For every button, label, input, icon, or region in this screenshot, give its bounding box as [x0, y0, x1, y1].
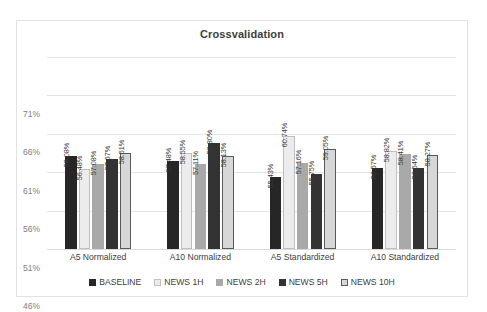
legend-label: BASELINE [99, 277, 141, 287]
legend-label: NEWS 5H [289, 277, 328, 287]
bar[interactable]: 56.48% [79, 169, 91, 249]
legend-label: NEWS 1H [164, 277, 203, 287]
bar-value-label: 60.74% [280, 123, 289, 147]
legend-item[interactable]: NEWS 10H [341, 277, 395, 287]
bar-value-label: 57.08% [89, 151, 98, 175]
bar-value-label: 57.16% [294, 150, 303, 174]
category-axis: A5 NormalizedA10 NormalizedA5 Standardiz… [47, 252, 456, 266]
bar-value-label: 59.05% [321, 136, 330, 160]
category-label: A5 Normalized [47, 252, 149, 262]
bar-value-label: 55.75% [307, 161, 316, 185]
bar-value-label: 59.80% [205, 130, 214, 154]
y-axis-tick-label: 61% [0, 186, 40, 196]
bar-value-label: 56.48% [75, 155, 84, 179]
category-label: A10 Normalized [149, 252, 251, 262]
y-axis-tick-label: 51% [0, 263, 40, 273]
bar[interactable]: 56.57% [372, 168, 384, 249]
bar[interactable]: 55.43% [270, 177, 282, 249]
bar-group: 58.08%56.48%57.08%57.67%58.51% [47, 57, 149, 249]
legend-label: NEWS 10H [351, 277, 395, 287]
chart-legend: BASELINENEWS 1HNEWS 2HNEWS 5HNEWS 10H [16, 275, 468, 289]
bar[interactable]: 57.11% [195, 164, 207, 249]
bar[interactable]: 59.05% [324, 149, 336, 249]
bar-value-label: 56.57% [369, 155, 378, 179]
legend-swatch-icon [154, 279, 161, 286]
category-label: A5 Standardized [252, 252, 354, 262]
gridline [47, 249, 456, 250]
legend-swatch-icon [341, 279, 348, 286]
bar-value-label: 58.51% [117, 140, 126, 164]
bar[interactable]: 58.82% [385, 151, 397, 249]
y-axis-tick-label: 66% [0, 147, 40, 157]
plot-area: 58.08%56.48%57.08%57.67%58.51%57.48%58.5… [47, 57, 456, 249]
bar-value-label: 56.54% [410, 155, 419, 179]
bar[interactable]: 55.75% [311, 174, 323, 249]
bar-value-label: 58.13% [219, 143, 228, 167]
legend-item[interactable]: NEWS 2H [216, 277, 265, 287]
bar-value-label: 58.08% [62, 143, 71, 167]
legend-swatch-icon [216, 279, 223, 286]
bar-value-label: 58.41% [396, 140, 405, 164]
bar-value-label: 57.48% [164, 148, 173, 172]
bar-value-label: 57.67% [103, 146, 112, 170]
bar-group: 56.57%58.82%58.41%56.54%58.27% [354, 57, 456, 249]
chart-title: Crossvalidation [17, 28, 467, 40]
bar-group: 55.43%60.74%57.16%55.75%59.05% [252, 57, 354, 249]
legend-label: NEWS 2H [226, 277, 265, 287]
legend-item[interactable]: NEWS 5H [279, 277, 328, 287]
legend-item[interactable]: NEWS 1H [154, 277, 203, 287]
legend-swatch-icon [89, 279, 96, 286]
y-axis: 46%51%56%61%66%71% [0, 57, 44, 249]
bar-value-label: 58.27% [423, 142, 432, 166]
bar[interactable]: 60.74% [283, 136, 295, 249]
legend-swatch-icon [279, 279, 286, 286]
bar[interactable]: 58.13% [222, 156, 234, 249]
bar-group: 57.48%58.55%57.11%59.80%58.13% [149, 57, 251, 249]
bar[interactable]: 57.08% [92, 164, 104, 249]
bar-value-label: 58.82% [382, 137, 391, 161]
bar-value-label: 55.43% [266, 163, 275, 187]
legend-item[interactable]: BASELINE [89, 277, 141, 287]
bar[interactable]: 57.67% [106, 159, 118, 249]
y-axis-tick-label: 46% [0, 301, 40, 311]
bar[interactable]: 56.54% [413, 168, 425, 249]
bar-value-label: 58.55% [178, 139, 187, 163]
bar[interactable]: 58.51% [120, 153, 132, 249]
bar[interactable]: 58.41% [399, 154, 411, 249]
y-axis-tick-label: 71% [0, 109, 40, 119]
bar[interactable]: 57.48% [167, 161, 179, 249]
category-label: A10 Standardized [354, 252, 456, 262]
y-axis-tick-label: 56% [0, 224, 40, 234]
bar[interactable]: 58.27% [427, 155, 439, 249]
bar-value-label: 57.11% [191, 151, 200, 175]
